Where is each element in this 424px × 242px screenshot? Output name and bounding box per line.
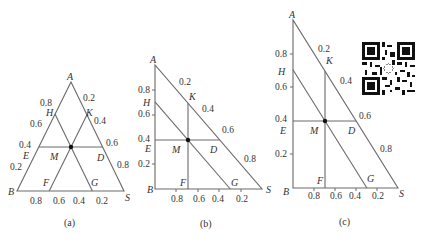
bottom-tick-0.6: 0.6: [330, 191, 342, 201]
point-D: D: [347, 125, 356, 136]
left-tick-0.8: 0.8: [138, 85, 150, 95]
triangle-outline: [155, 65, 262, 189]
right-tick-0.2: 0.2: [83, 93, 95, 103]
caption-a: (a): [64, 217, 75, 229]
vertex-A: A: [149, 54, 157, 65]
vertex-B: B: [283, 186, 289, 197]
left-tick-0.4: 0.4: [19, 140, 31, 150]
point-D: D: [96, 152, 105, 163]
point-F: F: [179, 177, 187, 188]
point-M-dot: [186, 138, 190, 142]
right-tick-0.6: 0.6: [359, 111, 371, 121]
right-tick-0.8: 0.8: [244, 154, 256, 164]
point-G: G: [367, 173, 374, 184]
left-tick-0.4: 0.4: [138, 134, 150, 144]
bottom-tick-0.8: 0.8: [171, 194, 183, 204]
point-M: M: [309, 125, 319, 136]
left-tick-0.2: 0.2: [275, 149, 287, 159]
right-tick-0.8: 0.8: [380, 144, 392, 154]
left-tick-0.2: 0.2: [10, 162, 22, 172]
caption-b: (b): [200, 218, 212, 230]
point-K: K: [188, 91, 197, 102]
bottom-tick-0.8: 0.8: [30, 196, 42, 206]
line-HG: [293, 70, 367, 188]
point-M: M: [49, 151, 59, 162]
right-tick-0.4: 0.4: [202, 104, 214, 114]
vertex-A: A: [66, 71, 74, 82]
caption-c: (c): [339, 216, 350, 228]
point-E: E: [22, 150, 29, 161]
point-M: M: [171, 144, 181, 155]
point-K: K: [85, 107, 94, 118]
point-E: E: [144, 143, 151, 154]
line-HG: [55, 114, 92, 191]
bottom-tick-0.4: 0.4: [349, 191, 361, 201]
point-G: G: [91, 177, 98, 188]
point-H: H: [45, 107, 54, 118]
bottom-tick-0.8: 0.8: [308, 191, 320, 201]
point-F: F: [42, 177, 50, 188]
point-E: E: [279, 125, 286, 136]
panel-a: A B S H K E D M F G 0.8 0.6 0.4 0.2 0.2 …: [8, 71, 130, 229]
bottom-tick-0.6: 0.6: [193, 194, 205, 204]
vertex-S: S: [125, 192, 130, 203]
right-tick-0.4: 0.4: [340, 76, 352, 86]
left-tick-0.8: 0.8: [40, 98, 52, 108]
triangle-outline: [17, 82, 124, 191]
right-tick-0.2: 0.2: [179, 77, 191, 87]
right-tick-0.4: 0.4: [94, 116, 106, 126]
left-tick-0.6: 0.6: [275, 82, 287, 92]
vertex-S: S: [266, 184, 271, 195]
bottom-tick-0.2: 0.2: [372, 191, 384, 201]
left-tick-0.8: 0.8: [275, 49, 287, 59]
left-tick-0.4: 0.4: [275, 114, 287, 124]
bottom-tick-0.2: 0.2: [96, 196, 108, 206]
point-D: D: [209, 144, 218, 155]
bottom-tick-0.4: 0.4: [212, 194, 224, 204]
left-tick-0.6: 0.6: [138, 109, 150, 119]
right-tick-0.2: 0.2: [318, 44, 330, 54]
right-tick-0.6: 0.6: [106, 138, 118, 148]
left-tick-0.2: 0.2: [138, 159, 150, 169]
vertex-B: B: [147, 184, 153, 195]
panel-b: A B S H K E D M F G 0.8 0.6 0.4 0.2 0.2 …: [138, 54, 271, 230]
right-tick-0.6: 0.6: [222, 125, 234, 135]
vertex-B: B: [8, 186, 14, 197]
bottom-tick-0.2: 0.2: [236, 194, 248, 204]
line-HG: [155, 102, 230, 189]
ternary-diagram-figure: A B S H K E D M F G 0.8 0.6 0.4 0.2 0.2 …: [0, 0, 424, 242]
bottom-tick-0.4: 0.4: [73, 196, 85, 206]
vertex-A: A: [288, 9, 296, 20]
qr-code: [362, 40, 415, 97]
vertex-S: S: [399, 188, 404, 199]
bottom-tick-0.6: 0.6: [53, 196, 65, 206]
point-H: H: [142, 97, 151, 108]
point-G: G: [231, 177, 238, 188]
point-K: K: [325, 55, 334, 66]
point-M-dot: [69, 145, 73, 149]
right-tick-0.8: 0.8: [117, 160, 129, 170]
point-F: F: [316, 175, 324, 186]
point-H: H: [277, 66, 286, 77]
left-tick-0.6: 0.6: [30, 119, 42, 129]
point-M-dot: [323, 119, 327, 123]
